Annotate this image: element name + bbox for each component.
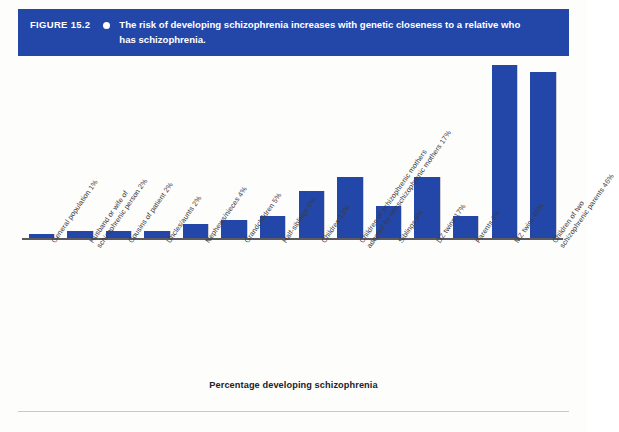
figure-caption: The risk of developing schizophrenia inc… [119, 18, 539, 47]
figure-number: FIGURE 15.2 [30, 18, 90, 30]
bar-chart: General population 1%Husband or wife of … [0, 58, 587, 368]
figure-banner: FIGURE 15.2 The risk of developing schiz… [18, 9, 569, 56]
x-axis-tick-labels: General population 1%Husband or wife of … [22, 240, 562, 360]
page-divider [18, 411, 569, 412]
bar-series [22, 58, 562, 238]
plot-area [22, 58, 562, 238]
x-axis-title: Percentage developing schizophrenia [0, 380, 587, 390]
bullet-dot-icon [103, 22, 110, 29]
bar-slot [22, 58, 61, 238]
